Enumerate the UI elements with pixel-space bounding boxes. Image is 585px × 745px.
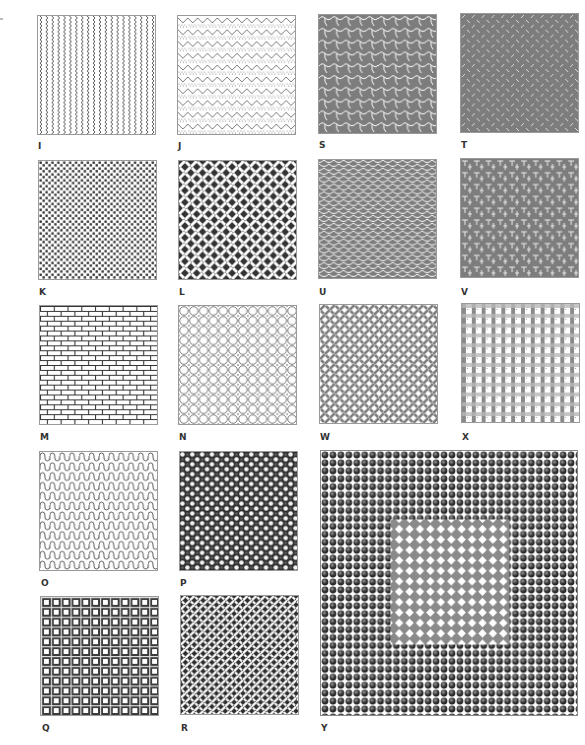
swatch-v	[460, 158, 579, 278]
swatch-k	[38, 160, 157, 280]
swatch-n	[178, 305, 297, 425]
swatch-r	[180, 595, 299, 715]
basket-weave-pattern-icon	[179, 161, 296, 279]
spheres-inset-pattern-icon	[321, 451, 577, 715]
swatch-q	[40, 596, 159, 716]
swatch-label: U	[319, 287, 326, 297]
swatch-o	[39, 451, 158, 571]
herringbone-pattern-icon	[320, 305, 437, 423]
t-weave-pattern-icon	[461, 159, 578, 277]
swatch-j	[177, 15, 296, 135]
swatch-label: K	[39, 287, 46, 297]
circle-checker-pattern-icon	[180, 452, 297, 570]
dense-weave-pattern-icon	[181, 596, 298, 714]
fish-scale-pattern-icon	[319, 160, 436, 278]
brick-pattern-icon	[40, 306, 157, 424]
swatch-l	[178, 160, 297, 280]
swatch-label: L	[179, 287, 185, 297]
swatch-x	[461, 303, 580, 423]
diamond-plate-pattern-icon	[461, 14, 578, 132]
swatch-label: W	[320, 432, 330, 442]
swatch-m	[39, 305, 158, 425]
gingham-pattern-icon	[462, 304, 579, 422]
corner-mark	[0, 18, 3, 20]
zigzag-dotted-pattern-icon	[178, 16, 295, 134]
swatch-label: Q	[42, 723, 50, 733]
hollow-squares-pattern-icon	[41, 597, 158, 715]
swatch-label: Y	[321, 723, 328, 733]
circle-lattice-pattern-icon	[179, 306, 296, 424]
swatch-label: M	[40, 432, 49, 442]
scale-tile-pattern-icon	[319, 15, 436, 133]
swatch-label: R	[181, 723, 188, 733]
swatch-t	[460, 13, 579, 133]
swatch-label: V	[461, 287, 468, 297]
swatch-label: J	[178, 141, 181, 151]
swatch-w	[319, 304, 438, 424]
swatch-label: T	[461, 140, 467, 150]
swatch-u	[318, 159, 437, 279]
swatch-s	[318, 14, 437, 134]
staggered-squares-pattern-icon	[39, 161, 156, 279]
zigzag-vertical-pattern-icon	[38, 16, 155, 134]
swatch-label: I	[38, 141, 41, 151]
wavy-bumps-pattern-icon	[40, 452, 157, 570]
swatch-i	[37, 15, 156, 135]
swatch-label: P	[180, 578, 187, 588]
swatch-label: X	[462, 432, 469, 442]
swatch-p	[179, 451, 298, 571]
swatch-y	[320, 450, 578, 716]
swatch-label: S	[319, 140, 325, 150]
swatch-label: N	[179, 432, 187, 442]
swatch-label: O	[41, 578, 49, 588]
